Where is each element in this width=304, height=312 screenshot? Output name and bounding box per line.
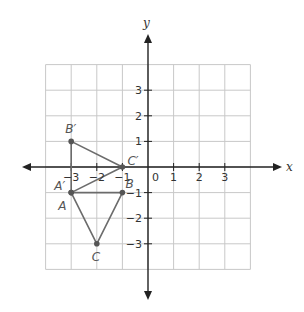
arrow-up-icon [144,34,152,43]
y-axis-label: y [142,16,150,30]
arrow-left-icon [22,163,31,171]
axes [22,34,282,300]
arrow-right-icon [273,163,282,171]
coordinate-plane: xy0−3−2−1123321−1−2−3ABCA′B′C′ [0,0,304,312]
point-A′ [68,190,74,196]
point-label: C′ [127,154,138,168]
x-tick-label: 3 [221,171,228,184]
point-label: A [57,199,66,213]
x-tick-label: 1 [170,171,177,184]
y-tick-label: 1 [135,135,142,148]
point-label: B′ [65,122,76,136]
origin-label: 0 [152,171,159,184]
point-label: B [125,177,133,191]
x-tick-label: −3 [63,171,79,184]
point-label: A′ [53,179,65,193]
x-tick-label: 2 [196,171,203,184]
y-tick-label: 2 [135,110,142,123]
arrow-down-icon [144,291,152,300]
point-C′ [120,164,126,170]
y-tick-label: −3 [126,238,142,251]
y-tick-label: 3 [135,84,142,97]
point-B [120,190,126,196]
x-tick-label: −2 [89,171,105,184]
x-axis-label: x [286,160,293,174]
point-B′ [68,139,74,145]
point-label: C [92,250,101,264]
y-tick-label: −2 [126,212,142,225]
point-C [94,241,100,247]
